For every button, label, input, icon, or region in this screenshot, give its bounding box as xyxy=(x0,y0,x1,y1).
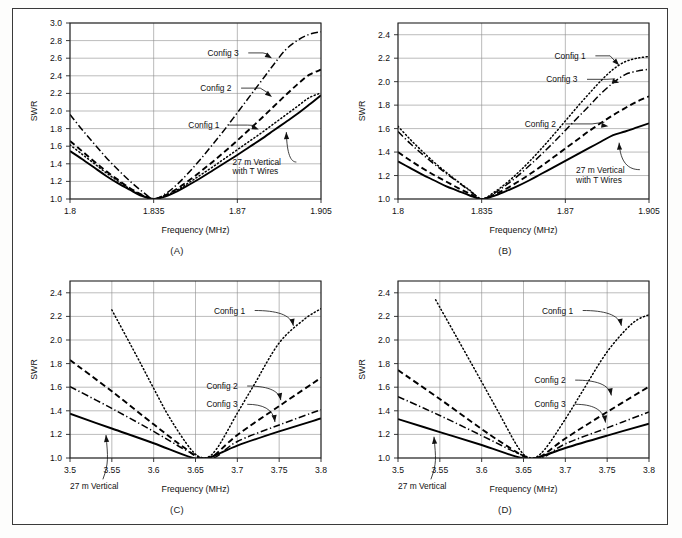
y-tick-label: 2.6 xyxy=(50,53,62,63)
x-axis-title: Frequency (MHz) xyxy=(162,484,230,494)
y-tick-label: 2.0 xyxy=(378,77,390,87)
x-tick-label: 3.65 xyxy=(515,465,532,475)
y-tick-label: 1.0 xyxy=(378,194,390,204)
panel-caption-b: (B) xyxy=(341,245,669,256)
y-tick-label: 2.2 xyxy=(378,311,390,321)
arrowhead-icon xyxy=(617,143,623,150)
axis-ticks: 1.01.21.41.61.82.02.22.41.81.8351.871.90… xyxy=(378,30,660,216)
annotation-label: with T Wires xyxy=(575,175,622,185)
arrowhead-icon xyxy=(431,437,437,444)
x-tick-label: 1.905 xyxy=(638,206,660,216)
y-tick-label: 1.0 xyxy=(50,194,62,204)
x-tick-label: 1.87 xyxy=(229,206,246,216)
y-tick-label: 1.6 xyxy=(50,141,62,151)
annotation-label: Config 2 xyxy=(200,83,232,93)
annotation-leader xyxy=(595,56,615,61)
chart-svg-b: 1.01.21.41.61.82.02.22.41.81.8351.871.90… xyxy=(341,9,669,267)
y-axis-title: SWR xyxy=(357,101,367,122)
annotation-label: with T Wires xyxy=(232,166,279,176)
annotation-label: Config 2 xyxy=(525,119,557,129)
figure-frame: 1.01.21.41.61.82.02.22.42.62.83.01.81.83… xyxy=(12,8,668,525)
y-tick-label: 1.6 xyxy=(378,124,390,134)
y-tick-label: 1.2 xyxy=(50,429,62,439)
annotation-leader xyxy=(255,311,294,326)
x-tick-label: 3.75 xyxy=(599,465,616,475)
annotations: Config 1Config 2Config 327 m Vertical xyxy=(398,306,624,492)
y-axis-title: SWR xyxy=(357,359,367,380)
x-tick-label: 3.5 xyxy=(392,465,404,475)
annotation-label: Config 1 xyxy=(214,306,246,316)
panel-caption-a: (A) xyxy=(13,245,341,256)
chart-svg-a: 1.01.21.41.61.82.02.22.42.62.83.01.81.83… xyxy=(13,9,341,267)
x-tick-label: 1.87 xyxy=(557,206,574,216)
arrowhead-icon xyxy=(289,318,295,326)
y-tick-label: 2.2 xyxy=(50,311,62,321)
x-axis-title: Frequency (MHz) xyxy=(490,484,558,494)
y-axis-title: SWR xyxy=(29,359,39,380)
y-tick-label: 1.8 xyxy=(378,100,390,110)
x-axis-title: Frequency (MHz) xyxy=(162,225,230,235)
annotations: Config 1Config 3Config 227 m Verticalwit… xyxy=(525,51,640,185)
y-tick-label: 2.8 xyxy=(50,36,62,46)
annotation-label: Config 3 xyxy=(206,399,238,409)
annotation-label: Config 1 xyxy=(555,51,587,61)
y-tick-label: 1.0 xyxy=(378,453,390,463)
chart-panel-c: 1.01.21.41.61.82.02.22.43.53.553.63.653.… xyxy=(13,267,341,526)
x-tick-label: 1.835 xyxy=(471,206,493,216)
y-tick-label: 2.4 xyxy=(378,288,390,298)
x-tick-label: 3.8 xyxy=(643,465,655,475)
x-tick-label: 3.5 xyxy=(64,465,76,475)
annotation-label: 27 m Vertical xyxy=(70,481,119,491)
annotation-leader xyxy=(575,404,605,422)
series-line-baseline xyxy=(398,123,649,199)
y-tick-label: 1.2 xyxy=(50,176,62,186)
y-tick-label: 2.4 xyxy=(378,30,390,40)
y-tick-label: 2.2 xyxy=(50,88,62,98)
annotations: Config 1Config 2Config 327 m Vertical xyxy=(70,306,296,492)
x-tick-label: 3.6 xyxy=(148,465,160,475)
y-tick-label: 2.0 xyxy=(50,335,62,345)
x-tick-label: 3.65 xyxy=(187,465,204,475)
y-tick-label: 3.0 xyxy=(50,18,62,28)
arrowhead-icon xyxy=(277,393,283,401)
series-group xyxy=(70,32,321,199)
annotation-label: 27 m Vertical xyxy=(576,165,625,175)
arrowhead-icon xyxy=(284,132,289,139)
y-tick-label: 2.2 xyxy=(378,53,390,63)
panel-caption-c: (C) xyxy=(13,504,341,515)
panel-caption-d: (D) xyxy=(341,504,669,515)
annotation-leader xyxy=(248,53,268,54)
gridlines xyxy=(70,281,321,458)
annotation-label: Config 2 xyxy=(206,381,238,391)
y-tick-label: 1.4 xyxy=(50,406,62,416)
chart-panel-d: 1.01.21.41.61.82.02.22.43.53.553.63.653.… xyxy=(341,267,669,526)
annotation-label: Config 3 xyxy=(546,74,578,84)
chart-svg-c: 1.01.21.41.61.82.02.22.43.53.553.63.653.… xyxy=(13,267,341,526)
chart-panel-b: 1.01.21.41.61.82.02.22.41.81.8351.871.90… xyxy=(341,9,669,267)
series-line-config-2 xyxy=(70,70,321,199)
y-axis-title: SWR xyxy=(29,101,39,122)
x-tick-label: 1.8 xyxy=(392,206,404,216)
y-tick-label: 1.4 xyxy=(378,406,390,416)
y-tick-label: 1.6 xyxy=(50,382,62,392)
y-tick-label: 1.4 xyxy=(50,159,62,169)
annotation-label: Config 2 xyxy=(534,375,566,385)
x-axis-title: Frequency (MHz) xyxy=(490,225,558,235)
annotation-leader xyxy=(583,311,622,326)
x-tick-label: 1.905 xyxy=(310,206,332,216)
arrowhead-icon xyxy=(601,123,609,129)
arrowhead-icon xyxy=(617,318,623,326)
annotation-label: Config 3 xyxy=(534,399,566,409)
x-tick-label: 3.75 xyxy=(271,465,288,475)
chart-svg-d: 1.01.21.41.61.82.02.22.43.53.553.63.653.… xyxy=(341,267,669,526)
y-tick-label: 1.2 xyxy=(378,429,390,439)
x-tick-label: 1.835 xyxy=(143,206,165,216)
y-tick-label: 2.4 xyxy=(50,288,62,298)
chart-panel-a: 1.01.21.41.61.82.02.22.42.62.83.01.81.83… xyxy=(13,9,341,267)
annotation-label: Config 3 xyxy=(207,48,239,58)
y-tick-label: 1.2 xyxy=(378,171,390,181)
axis-ticks: 1.01.21.41.61.82.02.22.42.62.83.01.81.83… xyxy=(50,18,332,216)
arrowhead-icon xyxy=(607,388,613,396)
annotation-label: Config 1 xyxy=(188,120,220,130)
x-tick-label: 3.6 xyxy=(476,465,488,475)
